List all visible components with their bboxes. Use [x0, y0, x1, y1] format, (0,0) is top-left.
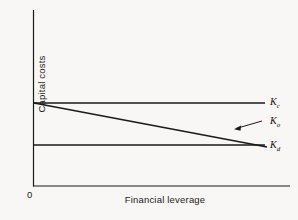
series-label-kd-base: K [270, 139, 277, 150]
series-label-ko: Ko [270, 115, 280, 129]
series-label-kc-subscript: c [277, 102, 280, 110]
capital-costs-figure: Capital costs Financial leverage 0 Kc Ko… [0, 0, 298, 220]
series-label-kd: Kd [270, 139, 280, 153]
x-axis-title: Financial leverage [110, 194, 220, 205]
series-line-ko [34, 103, 267, 147]
y-axis-title: Capital costs [36, 44, 47, 124]
series-label-kc: Kc [270, 96, 280, 110]
series-label-kc-base: K [270, 96, 277, 107]
origin-tick-label: 0 [27, 189, 32, 200]
series-label-ko-base: K [270, 115, 277, 126]
series-label-kd-subscript: d [277, 145, 281, 153]
ko-annotation-arrowhead [234, 126, 241, 131]
series-label-ko-subscript: o [277, 121, 281, 129]
